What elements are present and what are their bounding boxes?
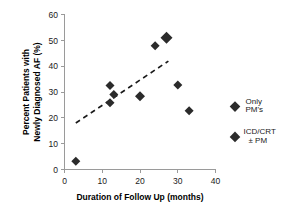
y-axis-title-line2: Newly Diagnosed AF (%): [32, 42, 42, 142]
x-tick-label-30: 30: [173, 176, 183, 186]
x-tick-label-0: 0: [62, 176, 67, 186]
y-axis-title-line1: Percent Patients with: [21, 49, 31, 135]
data-point-marker: [161, 32, 173, 44]
data-point-marker: [173, 81, 182, 90]
legend-label-1-line2: PM's: [246, 105, 264, 114]
data-point-marker: [106, 81, 115, 90]
y-tick-label-20: 20: [49, 113, 59, 123]
x-tick-label-10: 10: [98, 176, 108, 186]
data-point-marker: [135, 91, 145, 101]
data-point-marker: [109, 90, 118, 99]
x-tick-label-20: 20: [135, 176, 145, 186]
chart-figure: 60 50 40 30 20 10 0 0 10 20 30 40 Durati…: [0, 0, 281, 212]
y-tick-label-30: 30: [49, 87, 59, 97]
y-tick-label-50: 50: [49, 36, 59, 46]
legend-diamond-marker-icon-2: [230, 132, 241, 143]
trendline: [76, 61, 169, 123]
x-axis-title: Duration of Follow Up (months): [76, 192, 203, 202]
y-tick-label-0: 0: [53, 165, 58, 175]
y-tick-label-10: 10: [49, 139, 59, 149]
y-tick-label-60: 60: [49, 10, 59, 20]
data-point-marker: [151, 41, 160, 50]
x-tick-label-40: 40: [211, 176, 221, 186]
data-point-marker: [71, 157, 80, 166]
data-point-marker: [185, 106, 194, 115]
scatter-plot-svg: 60 50 40 30 20 10 0 0 10 20 30 40 Durati…: [0, 0, 281, 212]
data-point-marker: [106, 98, 115, 107]
legend-label-2-line2: ± PM: [249, 136, 268, 145]
legend-diamond-marker-icon-1: [230, 101, 241, 112]
y-tick-label-40: 40: [49, 61, 59, 71]
